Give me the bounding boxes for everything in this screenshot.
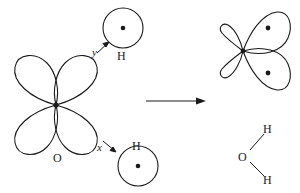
reaction-arrow: [146, 98, 206, 105]
hydrogen-top-electron-dot: [121, 26, 126, 31]
hydrogen-bottom-electron-dot: [136, 164, 141, 169]
oxygen-label-reactant: O: [53, 152, 62, 164]
hybrid-lobe-large-lower: [243, 49, 290, 91]
figure-canvas: [0, 0, 300, 193]
oxygen-nucleus-dot: [53, 102, 58, 107]
hydrogen-bottom-label: H: [132, 140, 141, 152]
y-axis-label: y: [92, 47, 97, 58]
water-hydrogen-bottom-label: H: [263, 174, 272, 186]
axis-leader-lines: [97, 42, 116, 152]
hybrid-lower-electron-dot: [266, 71, 271, 76]
hybrid-lobe-small-lower: [220, 51, 243, 78]
hydrogen-top-label: H: [117, 50, 126, 62]
hybrid-lobe-large-upper: [243, 12, 290, 54]
water-oxygen-label: O: [238, 151, 247, 163]
water-hydrogen-top-label: H: [263, 123, 272, 135]
hybrid-upper-electron-dot: [266, 26, 271, 31]
hybrid-lobe-small-upper: [220, 24, 243, 51]
reaction-arrow-head: [196, 98, 206, 105]
hybrid-orbital-product: [220, 12, 290, 90]
orbital-reaction-figure: O H H y x O H H: [0, 0, 300, 193]
oxygen-p-orbitals: [15, 56, 98, 155]
orbital-lobe-upper-right: [54, 56, 97, 105]
orbital-lobe-lower-left: [15, 105, 58, 154]
water-bond-upper: [250, 134, 264, 150]
orbital-lobe-lower-right: [54, 105, 97, 154]
hybrid-orbital-center-dot: [241, 49, 246, 54]
orbital-lobe-upper-left: [15, 56, 58, 105]
water-bond-lower: [250, 162, 264, 176]
x-axis-label: x: [97, 142, 102, 153]
water-molecule-bonds: [250, 134, 264, 176]
